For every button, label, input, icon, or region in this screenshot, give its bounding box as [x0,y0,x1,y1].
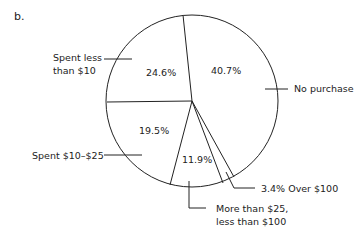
label-no-purchase: No purchase [294,83,354,94]
pct-24-6: 24.6% [146,67,176,78]
label-spent-less-1: Spent less [53,52,102,63]
label-spent-less-2: than $10 [53,65,96,76]
pct-11-9: 11.9% [182,154,212,165]
label-more-25-2: less than $100 [216,216,286,227]
pct-40-7: 40.7% [211,65,241,76]
label-spent-10-25: Spent $10–$25 [32,150,104,161]
pie-chart: 24.6% 40.7% 19.5% 11.9% Spent less than … [0,0,358,237]
label-over-100: 3.4% Over $100 [261,183,338,194]
pct-19-5: 19.5% [139,125,169,136]
label-more-25-1: More than $25, [216,203,288,214]
